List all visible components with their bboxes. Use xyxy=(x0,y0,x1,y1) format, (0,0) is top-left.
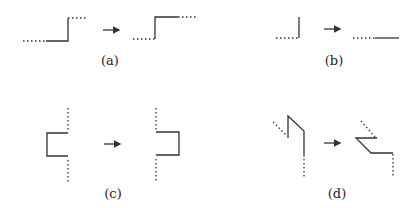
panel-d-before xyxy=(273,116,304,178)
panel-c-label: (c) xyxy=(104,186,121,201)
panel-c-before xyxy=(47,108,68,183)
panel-a-label: (a) xyxy=(101,53,119,68)
diagram-canvas xyxy=(0,0,417,208)
panel-c-after xyxy=(156,108,179,183)
panel-b-label: (b) xyxy=(325,53,343,68)
panel-b-before xyxy=(276,17,299,38)
panel-d-after xyxy=(356,121,393,177)
panel-a-before xyxy=(23,18,88,41)
panel-a-after xyxy=(133,17,198,39)
panel-d-label: (d) xyxy=(328,186,346,201)
